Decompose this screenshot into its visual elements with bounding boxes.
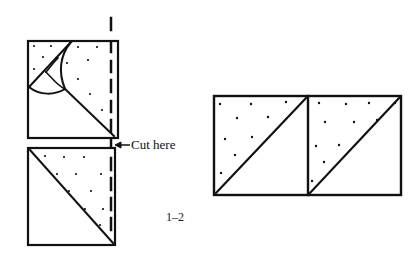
cut-here-label: Cut here [131,137,175,153]
diagram-canvas [0,0,420,266]
top-folded-square [28,41,118,138]
bottom-square [28,148,115,245]
arrow-left-icon [115,142,130,148]
figure-number: 1–2 [166,210,184,225]
two-triangle-squares [214,96,401,195]
